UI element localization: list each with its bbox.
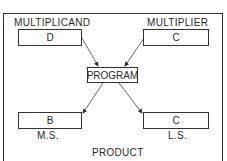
multiplier-value: C	[172, 32, 179, 43]
ms-value: B	[47, 115, 54, 126]
multiplicand-value: D	[46, 32, 53, 43]
multiplicand-label: MULTIPLICAND	[14, 17, 90, 28]
multiplier-box: C	[143, 29, 209, 46]
arrow-multiplier-to-program	[125, 38, 144, 66]
program-box: PROGRAM	[87, 67, 138, 83]
arrow-multiplicand-to-program	[82, 38, 98, 66]
program-label: PROGRAM	[87, 70, 139, 81]
ls-value: C	[172, 115, 179, 126]
ms-label: M.S.	[37, 130, 59, 141]
arrow-program-to-ls	[119, 83, 142, 113]
multiplicand-box: D	[18, 29, 82, 46]
product-label: PRODUCT	[92, 147, 144, 158]
arrow-program-to-ms	[83, 83, 103, 113]
ls-box: C	[143, 112, 209, 129]
multiplier-label: MULTIPLIER	[147, 17, 208, 28]
ls-label: L.S.	[168, 130, 187, 141]
ms-box: B	[18, 112, 82, 129]
